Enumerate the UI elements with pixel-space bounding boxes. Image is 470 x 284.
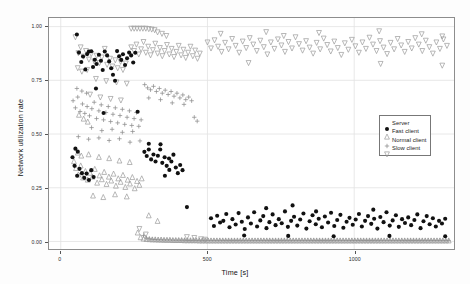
x-tick-label: 0 bbox=[58, 256, 61, 262]
plus-icon bbox=[382, 136, 392, 144]
y-tick-label: 1.00 bbox=[4, 23, 42, 29]
legend-label: Fast client bbox=[392, 128, 419, 134]
legend-item: Normal client bbox=[382, 136, 426, 144]
x-tick-mark bbox=[60, 251, 61, 254]
triangle-down-icon bbox=[382, 144, 392, 152]
legend-label: Normal client bbox=[392, 137, 426, 143]
legend-item: Fast client bbox=[382, 127, 426, 135]
legend-item: Server bbox=[382, 119, 426, 127]
x-tick-label: 1000 bbox=[349, 256, 361, 262]
x-tick-mark bbox=[207, 251, 208, 254]
y-tick-mark bbox=[45, 242, 48, 243]
x-tick-label: 500 bbox=[203, 256, 212, 262]
y-tick-label: 0.00 bbox=[4, 239, 42, 245]
legend-label: Server bbox=[392, 120, 409, 126]
y-tick-mark bbox=[45, 26, 48, 27]
y-tick-mark bbox=[45, 188, 48, 189]
x-axis-label: Time [s] bbox=[0, 268, 470, 277]
scatter-plot-figure: 0.000.250.500.751.0005001000 Network uti… bbox=[0, 0, 470, 284]
y-tick-mark bbox=[45, 134, 48, 135]
x-tick-mark bbox=[355, 251, 356, 254]
chart-legend: ServerFast clientNormal clientSlow clien… bbox=[379, 115, 431, 156]
y-tick-mark bbox=[45, 80, 48, 81]
legend-label: Slow client bbox=[392, 145, 420, 151]
y-axis-label: Network utilization rate bbox=[16, 78, 25, 198]
filled-circle-icon bbox=[382, 119, 392, 127]
triangle-up-icon bbox=[382, 127, 392, 135]
legend-item: Slow client bbox=[382, 144, 426, 152]
